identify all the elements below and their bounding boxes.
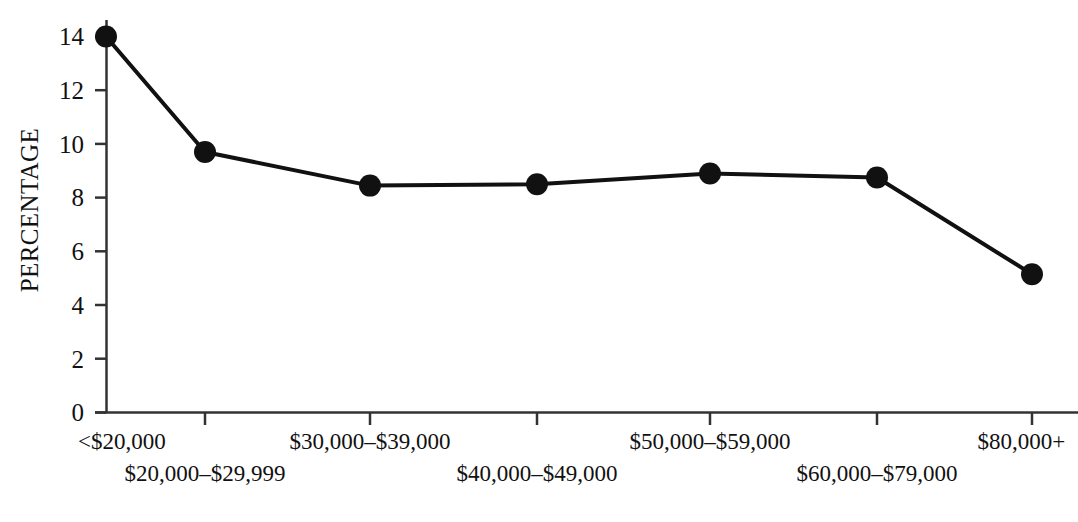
- x-tick-label-5: $60,000–$79,000: [797, 462, 958, 485]
- data-point-2: [359, 175, 381, 197]
- chart-container: PERCENTAGE 14 12 10 8 6 4 2 0: [0, 0, 1078, 522]
- y-tick-marks: [95, 37, 107, 413]
- x-tick-label-4: $50,000–$59,000: [630, 430, 791, 453]
- x-tick-label-6: $80,000+: [978, 430, 1066, 453]
- data-point-6: [1021, 263, 1043, 285]
- data-point-0: [95, 26, 117, 48]
- data-point-1: [194, 141, 216, 163]
- x-tick-marks: [205, 413, 1032, 426]
- x-tick-label-1: $20,000–$29,999: [125, 462, 286, 485]
- x-tick-label-2: $30,000–$39,000: [290, 430, 451, 453]
- data-point-4: [699, 163, 721, 185]
- plot-area: [0, 0, 1078, 430]
- data-series-markers: [95, 26, 1043, 286]
- data-point-5: [866, 167, 888, 189]
- data-point-3: [526, 173, 548, 195]
- data-series-line: [106, 37, 1032, 275]
- x-tick-label-0: <$20,000: [78, 430, 166, 453]
- x-tick-label-3: $40,000–$49,000: [457, 462, 618, 485]
